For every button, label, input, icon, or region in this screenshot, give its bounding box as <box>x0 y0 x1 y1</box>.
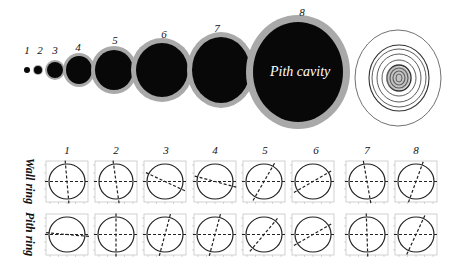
pith-cavity-2 <box>34 66 42 74</box>
section-number-7: 7 <box>214 22 220 34</box>
column-number-5: 5 <box>262 144 268 156</box>
section-number-3: 3 <box>52 44 58 56</box>
section-number-6: 6 <box>161 28 167 40</box>
pith-cavity-1 <box>24 67 30 73</box>
section-number-2: 2 <box>37 44 43 56</box>
column-number-7: 7 <box>364 144 370 156</box>
section-number-4: 4 <box>75 41 81 53</box>
column-number-8: 8 <box>413 144 419 156</box>
pith-cavity-3 <box>47 62 63 78</box>
row-label-wall-ring: Wall ring <box>22 158 37 204</box>
pith-cavity-label: Pith cavity <box>270 64 330 80</box>
growth-ring-core <box>386 66 410 90</box>
column-number-3: 3 <box>163 144 169 156</box>
pith-cavity-7 <box>192 37 250 103</box>
pith-cavity-5 <box>95 50 133 90</box>
section-number-8: 8 <box>299 6 305 18</box>
column-number-6: 6 <box>313 144 319 156</box>
pith-cavity-4 <box>66 56 92 84</box>
column-number-2: 2 <box>113 144 119 156</box>
row-label-pith-ring: Pith ring <box>22 212 37 256</box>
section-number-1: 1 <box>24 44 30 56</box>
section-number-5: 5 <box>112 34 118 46</box>
column-number-1: 1 <box>64 144 70 156</box>
column-number-4: 4 <box>212 144 218 156</box>
figure-canvas <box>0 0 466 267</box>
pith-cavity-6 <box>136 43 188 97</box>
figure: Pith cavity Wall ring Pith ring 1 2 3 4 … <box>0 0 466 267</box>
